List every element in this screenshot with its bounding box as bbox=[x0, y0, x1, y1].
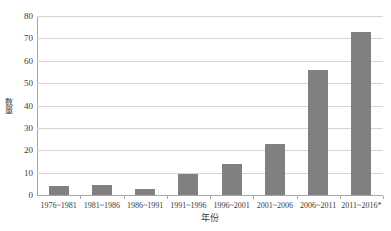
bar bbox=[308, 70, 328, 195]
x-axis-tick-labels: 1976~19811981~19861986~19911991~19961996… bbox=[37, 200, 383, 212]
plot-area bbox=[37, 16, 383, 195]
x-axis-title: 年份 bbox=[37, 212, 383, 224]
y-axis-tick-label: 30 bbox=[14, 123, 33, 132]
x-axis-tickmark bbox=[167, 196, 168, 199]
gridline bbox=[37, 38, 383, 39]
x-axis-tickmark bbox=[340, 196, 341, 199]
x-axis-tick-label: 2011~2016* bbox=[340, 200, 383, 211]
x-axis-tickmark bbox=[383, 196, 384, 199]
x-axis-tickmark bbox=[297, 196, 298, 199]
gridline bbox=[37, 16, 383, 17]
bar bbox=[49, 186, 69, 195]
bar bbox=[222, 164, 242, 195]
y-axis-title: 数量 bbox=[0, 78, 12, 134]
x-axis-tickmark bbox=[253, 196, 254, 199]
bar bbox=[178, 174, 198, 195]
y-axis-tick-label: 50 bbox=[14, 79, 33, 88]
x-axis-tick-label: 1981~1986 bbox=[80, 200, 123, 211]
y-axis-tick-label: 10 bbox=[14, 168, 33, 177]
x-axis-tickmark bbox=[124, 196, 125, 199]
gridline bbox=[37, 150, 383, 151]
y-axis-tick-label: 0 bbox=[14, 191, 33, 200]
y-axis-tick-label: 70 bbox=[14, 34, 33, 43]
gridline bbox=[37, 106, 383, 107]
x-axis-tick-label: 1991~1996 bbox=[167, 200, 210, 211]
y-axis-tick-label: 40 bbox=[14, 101, 33, 110]
gridline bbox=[37, 61, 383, 62]
gridline bbox=[37, 128, 383, 129]
bar bbox=[351, 32, 371, 195]
x-axis-tick-label: 1976~1981 bbox=[37, 200, 80, 211]
bar bbox=[92, 185, 112, 195]
bar bbox=[265, 144, 285, 195]
y-axis-tick-label: 60 bbox=[14, 56, 33, 65]
x-axis-tick-label: 1986~1991 bbox=[124, 200, 167, 211]
gridline bbox=[37, 83, 383, 84]
x-axis-tick-label: 1996~2001 bbox=[210, 200, 253, 211]
gridline bbox=[37, 173, 383, 174]
x-axis-tickmark bbox=[210, 196, 211, 199]
x-axis-tick-label: 2006~2011 bbox=[297, 200, 340, 211]
y-axis-tick-label: 80 bbox=[14, 12, 33, 21]
x-axis-tick-label: 2001~2006 bbox=[253, 200, 296, 211]
y-axis-tick-labels: 01020304050607080 bbox=[14, 0, 33, 231]
y-axis-tick-label: 20 bbox=[14, 146, 33, 155]
x-axis-tickmark bbox=[80, 196, 81, 199]
bar-chart: 数量 01020304050607080 1976~19811981~19861… bbox=[0, 0, 391, 231]
